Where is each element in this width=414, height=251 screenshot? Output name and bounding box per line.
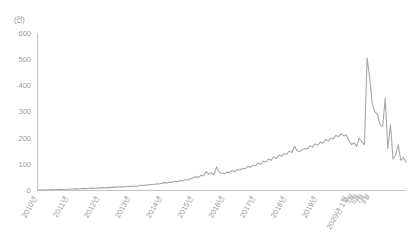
y-axis-tick-label: 100 [18, 160, 31, 169]
x-axis-tick-label: 2018년 [268, 194, 289, 220]
x-axis-tick-label: 2016년 [206, 194, 227, 220]
y-axis-tick-label: 300 [18, 107, 31, 116]
x-axis-tick-label: 2010년 [19, 194, 40, 220]
x-axis-tick-label: 2015년 [174, 194, 195, 220]
line-chart-svg: 0100200300400500600 2010년2011년2012년2013년… [0, 0, 414, 251]
x-axis-tick-labels: 2010년2011년2012년2013년2014년2015년2016년2017년… [19, 193, 371, 232]
chart-container: (건) 0100200300400500600 2010년2011년2012년2… [0, 0, 414, 251]
x-axis-tick-label: 2011년 [50, 194, 70, 219]
y-axis-tick-label: 0 [27, 186, 31, 195]
x-axis-tick-label: 2014년 [143, 194, 164, 220]
x-axis-tick-label: 2017년 [237, 194, 258, 220]
x-axis-tick-label: 2013년 [112, 194, 133, 220]
y-axis-tick-label: 200 [18, 134, 31, 143]
chart-axes [38, 33, 407, 191]
x-axis-tick-label: 2019년 [299, 194, 320, 220]
y-axis-tick-label: 400 [18, 81, 31, 90]
data-series-group [38, 58, 407, 190]
series-line [38, 58, 407, 190]
y-axis-tick-labels: 0100200300400500600 [18, 29, 31, 196]
x-axis-tick-label: 2012년 [81, 194, 102, 220]
y-axis-tick-label: 500 [18, 55, 31, 64]
y-axis-tick-label: 600 [18, 29, 31, 38]
